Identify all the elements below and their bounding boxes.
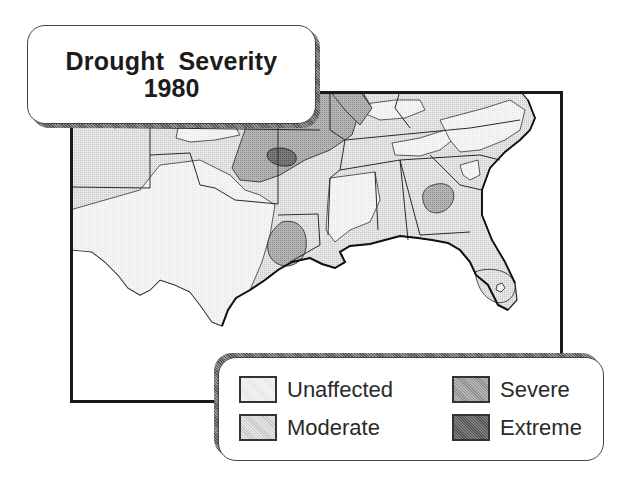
legend-panel: Unaffected Moderate Severe Extreme: [218, 357, 604, 461]
title-panel: Drought Severity 1980: [27, 25, 316, 124]
title-box: Drought Severity 1980: [27, 25, 316, 124]
legend: Unaffected Moderate Severe Extreme: [218, 357, 606, 463]
legend-item-severe: Severe: [452, 376, 570, 403]
moderate-swatch: [239, 414, 277, 441]
extreme-swatch: [452, 414, 490, 441]
unaffected-swatch: [239, 376, 277, 403]
severe-swatch: [452, 376, 490, 403]
map-title: Drought Severity: [66, 48, 278, 75]
legend-label: Severe: [500, 377, 570, 403]
legend-item-moderate: Moderate: [239, 414, 380, 441]
legend-label: Extreme: [500, 415, 582, 441]
map-year: 1980: [144, 75, 200, 102]
legend-item-extreme: Extreme: [452, 414, 582, 441]
legend-item-unaffected: Unaffected: [239, 376, 393, 403]
legend-label: Unaffected: [287, 377, 393, 403]
legend-label: Moderate: [287, 415, 380, 441]
